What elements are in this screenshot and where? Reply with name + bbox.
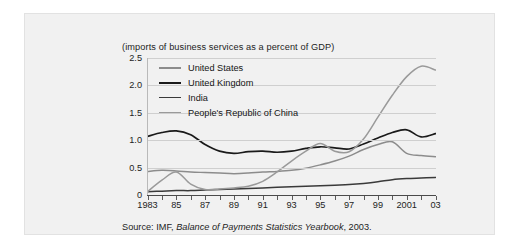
y-tick-label: 1.0 bbox=[129, 135, 142, 145]
legend-label: United Kingdom bbox=[188, 78, 253, 88]
source-prefix: Source: IMF, bbox=[122, 222, 174, 232]
gridline bbox=[147, 58, 436, 59]
figure-panel: (imports of business services as a perce… bbox=[24, 13, 495, 235]
y-tick-label: 1.5 bbox=[129, 108, 142, 118]
x-tick-label: 99 bbox=[373, 200, 383, 210]
legend-label: People's Republic of China bbox=[188, 108, 298, 118]
y-tick-label: 0.5 bbox=[129, 163, 142, 173]
legend-swatch bbox=[159, 67, 181, 69]
x-tick-label: 93 bbox=[286, 200, 296, 210]
legend-item[interactable]: United States bbox=[159, 60, 298, 75]
legend-item[interactable]: India bbox=[159, 90, 298, 105]
y-axis-spine bbox=[147, 58, 148, 196]
legend-item[interactable]: People's Republic of China bbox=[159, 105, 298, 120]
x-tick-label: 03 bbox=[430, 200, 440, 210]
legend-item[interactable]: United Kingdom bbox=[159, 75, 298, 90]
x-tick-label: 1983 bbox=[137, 200, 157, 210]
y-tick-label: 2.0 bbox=[129, 80, 142, 90]
x-tick-label: 87 bbox=[200, 200, 210, 210]
gridline bbox=[147, 168, 436, 169]
x-tick-label: 85 bbox=[171, 200, 181, 210]
x-tick-label: 97 bbox=[344, 200, 354, 210]
legend-swatch bbox=[159, 97, 181, 98]
x-tick-label: 91 bbox=[258, 200, 268, 210]
legend-label: United States bbox=[188, 63, 243, 73]
legend-swatch bbox=[159, 82, 181, 84]
legend-swatch bbox=[159, 112, 181, 113]
chart-subtitle: (imports of business services as a perce… bbox=[122, 42, 334, 52]
x-tick-label: 2001 bbox=[396, 200, 416, 210]
source-suffix: , 2003. bbox=[343, 222, 371, 232]
y-tick-label: 0 bbox=[137, 190, 142, 200]
x-axis-labels: 19838587899193959799200103 bbox=[147, 200, 440, 213]
series-line bbox=[148, 141, 436, 173]
x-tick-label: 95 bbox=[315, 200, 325, 210]
legend-label: India bbox=[188, 93, 208, 103]
gridline bbox=[147, 140, 436, 141]
chart-legend: United StatesUnited KingdomIndiaPeople's… bbox=[159, 60, 298, 120]
source-title: Balance of Payments Statistics Yearbook bbox=[176, 222, 343, 232]
source-note: Source: IMF, Balance of Payments Statist… bbox=[122, 222, 372, 232]
y-tick-label: 2.5 bbox=[129, 53, 142, 63]
x-tick-label: 89 bbox=[229, 200, 239, 210]
y-axis-labels: 00.51.01.52.02.5 bbox=[111, 58, 142, 196]
